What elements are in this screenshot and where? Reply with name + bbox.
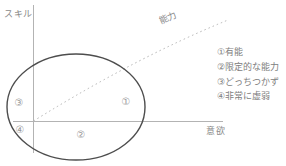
skill-motivation-diagram: スキル 意欲 能力 ① ② ③ ④ ①有能 ②限定的な能力 ③どっちつかず ④非…	[0, 0, 286, 166]
legend-item-3: ③どっちつかず	[217, 75, 279, 90]
ellipse-boundary	[7, 54, 145, 160]
legend-item-4: ④非常に虚弱	[217, 89, 279, 104]
legend-item-1: ①有能	[217, 45, 279, 60]
y-axis-label: スキル	[4, 7, 33, 20]
legend: ①有能 ②限定的な能力 ③どっちつかず ④非常に虚弱	[217, 45, 279, 104]
quadrant-marker-1: ①	[122, 97, 131, 107]
legend-item-2: ②限定的な能力	[217, 60, 279, 75]
quadrant-marker-2: ②	[77, 130, 86, 140]
x-axis-label: 意欲	[206, 124, 225, 137]
ability-diagonal-dotted-line	[34, 20, 229, 121]
quadrant-marker-4: ④	[16, 125, 25, 135]
quadrant-marker-3: ③	[15, 98, 24, 108]
